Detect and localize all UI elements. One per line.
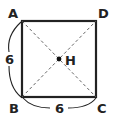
center-point-h — [57, 57, 62, 62]
vertex-label-d: D — [98, 6, 109, 21]
square-diagram: A D B C H 6 6 — [0, 0, 116, 122]
vertex-label-a: A — [8, 6, 18, 21]
vertex-label-b: B — [9, 101, 19, 116]
center-label-h: H — [65, 53, 76, 68]
side-length-bc: 6 — [55, 101, 64, 116]
vertex-label-c: C — [97, 101, 107, 116]
side-length-ab: 6 — [5, 52, 14, 67]
